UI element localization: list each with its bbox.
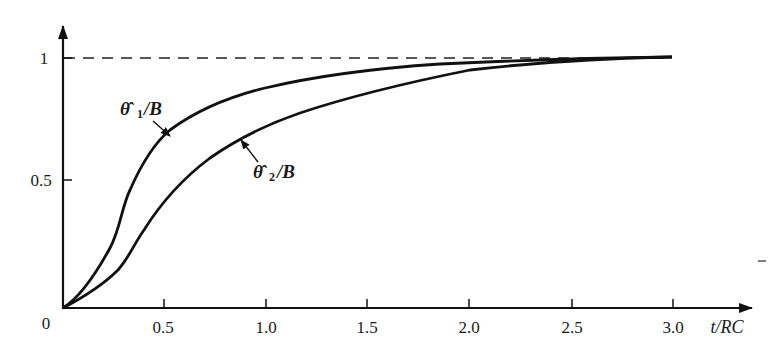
- x-tick-label: 2.5: [561, 318, 582, 337]
- svg-text:1: 1: [137, 107, 143, 121]
- origin-label: 0: [42, 314, 51, 333]
- x-axis-title: t/RC: [710, 317, 744, 337]
- x-tick-label: 2.0: [458, 318, 479, 337]
- label-theta2: θ̂ 2 /B: [253, 161, 295, 184]
- curve-theta2: [63, 57, 672, 308]
- svg-text:/B: /B: [275, 161, 295, 182]
- y-tick-label-0.5: 0.5: [30, 171, 51, 190]
- x-tick-label: 0.5: [152, 318, 173, 337]
- x-ticks: [164, 299, 673, 308]
- svg-text:/B: /B: [142, 98, 162, 119]
- label-theta1: θ̂ 1 /B: [120, 98, 162, 121]
- y-tick-label-1: 1: [40, 49, 49, 68]
- svg-text:2: 2: [269, 170, 275, 184]
- annotation-arrow-theta1: [153, 121, 170, 136]
- annotation-arrow-theta2: [241, 140, 258, 162]
- x-tick-label: 1.0: [255, 318, 276, 337]
- svg-text:θ̂: θ̂: [120, 98, 135, 119]
- svg-text:θ̂: θ̂: [253, 161, 268, 182]
- x-tick-label: 3.0: [662, 318, 683, 337]
- x-tick-label: 1.5: [356, 318, 377, 337]
- response-chart: 1 0.5 0 0.5 1.0 1.5 2.0 2.5 3.0 t/RC θ̂ …: [0, 0, 778, 355]
